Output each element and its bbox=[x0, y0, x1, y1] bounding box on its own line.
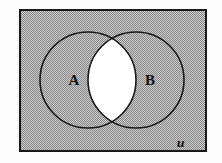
venn-diagram-figure: A B ᵤ bbox=[0, 0, 222, 163]
venn-diagram-canvas: A B ᵤ bbox=[0, 0, 222, 163]
universe-label: ᵤ bbox=[177, 125, 185, 150]
set-a-label: A bbox=[69, 72, 80, 88]
set-b-label: B bbox=[145, 72, 155, 88]
